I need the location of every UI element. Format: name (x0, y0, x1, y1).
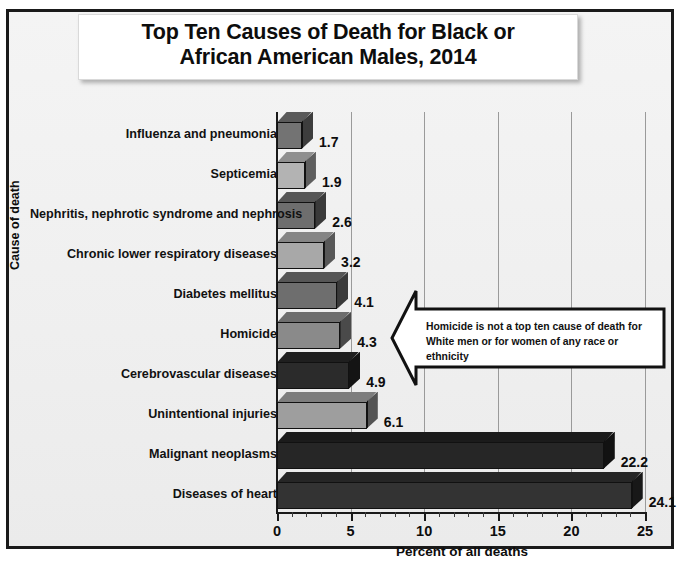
x-tick-minor-7 (380, 512, 381, 517)
value-label: 1.9 (322, 174, 341, 190)
x-tick-minor-1 (292, 512, 293, 517)
x-tick-major-10 (424, 512, 426, 521)
x-tick-minor-14 (483, 512, 484, 517)
x-tick-minor-24 (630, 512, 631, 517)
value-label: 3.2 (341, 254, 360, 270)
category-label: Homicide (30, 327, 284, 341)
x-tick-label-15: 15 (490, 523, 506, 539)
x-tick-minor-6 (365, 512, 366, 517)
category-label: Septicemia (30, 167, 284, 181)
bar-front-face (277, 482, 632, 509)
bar-front-face (277, 242, 324, 269)
x-tick-minor-16 (513, 512, 514, 517)
callout-annotation: Homicide is not a top ten cause of death… (390, 288, 666, 388)
x-tick-label-25: 25 (637, 523, 653, 539)
x-tick-major-20 (571, 512, 573, 521)
value-label: 4.9 (366, 374, 385, 390)
x-axis-title: Percent of all deaths (277, 544, 647, 559)
figure-page: Top Ten Causes of Death for Black or Afr… (0, 0, 682, 569)
value-label: 2.6 (332, 214, 351, 230)
bar-front-face (277, 322, 340, 349)
x-tick-minor-12 (454, 512, 455, 517)
value-label: 22.2 (621, 454, 648, 470)
bar-front-face (277, 282, 337, 309)
x-tick-minor-21 (586, 512, 587, 517)
category-label: Influenza and pneumonia (30, 127, 284, 141)
x-tick-major-5 (351, 512, 353, 521)
category-label: Unintentional injuries (30, 407, 284, 421)
bar-front-face (277, 442, 604, 469)
x-tick-minor-4 (336, 512, 337, 517)
x-tick-label-5: 5 (347, 523, 355, 539)
category-label: Malignant neoplasms (30, 447, 284, 461)
chart-title: Top Ten Causes of Death for Black or Afr… (78, 14, 578, 80)
x-tick-major-15 (498, 512, 500, 521)
value-label: 4.3 (357, 334, 376, 350)
callout-text: Homicide is not a top ten cause of death… (426, 319, 658, 364)
value-label: 1.7 (319, 134, 338, 150)
x-tick-minor-17 (527, 512, 528, 517)
x-tick-label-10: 10 (416, 523, 432, 539)
bar-front-face (277, 402, 367, 429)
category-label: Cerebrovascular diseases (30, 367, 284, 381)
x-tick-minor-3 (321, 512, 322, 517)
x-tick-minor-19 (557, 512, 558, 517)
category-label: Diabetes mellitus (30, 287, 284, 301)
value-label: 6.1 (384, 414, 403, 430)
chart-title-line-2: African American Males, 2014 (87, 45, 569, 70)
x-tick-minor-8 (395, 512, 396, 517)
x-tick-minor-11 (439, 512, 440, 517)
x-tick-minor-18 (542, 512, 543, 517)
category-label: Diseases of heart (30, 487, 284, 501)
category-label: Chronic lower respiratory diseases (30, 247, 284, 261)
x-tick-minor-23 (616, 512, 617, 517)
x-tick-label-20: 20 (563, 523, 579, 539)
x-tick-major-25 (645, 512, 647, 521)
value-label: 4.1 (354, 294, 373, 310)
x-tick-minor-9 (409, 512, 410, 517)
x-tick-minor-2 (306, 512, 307, 517)
x-tick-minor-22 (601, 512, 602, 517)
x-axis-line (277, 512, 647, 514)
x-tick-minor-13 (468, 512, 469, 517)
bar-front-face (277, 362, 349, 389)
x-tick-major-0 (277, 512, 279, 521)
y-axis-title: Cause of death (8, 180, 22, 270)
x-tick-label-0: 0 (273, 523, 281, 539)
value-label: 24.1 (649, 494, 676, 510)
category-label: Nephritis, nephrotic syndrome and nephro… (30, 207, 284, 221)
chart-title-line-1: Top Ten Causes of Death for Black or (87, 20, 569, 45)
